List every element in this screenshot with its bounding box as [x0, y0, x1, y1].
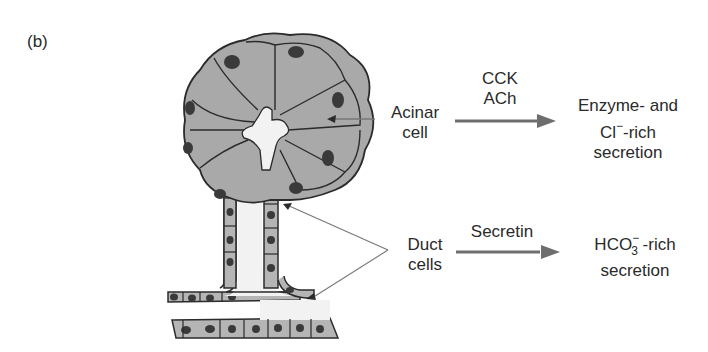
duct-secretion-arrow	[456, 245, 560, 259]
acinar-stimuli: CCK ACh	[470, 69, 530, 109]
acinar-secretion-arrow	[455, 114, 556, 128]
duct-output: HCO−3 -rich secretion	[580, 228, 690, 281]
acinar-cell-label: Acinar cell	[380, 103, 450, 143]
duct-cells-label: Duct cells	[395, 235, 455, 275]
bicarbonate-rich-line: HCO−3 -rich	[580, 228, 690, 261]
chloride-rich-line: Cl−-rich	[568, 116, 688, 143]
acinus	[183, 33, 373, 202]
acinus-illustration	[0, 0, 708, 352]
duct-stimulus: Secretin	[462, 222, 542, 242]
panel-label: (b)	[27, 32, 48, 52]
duct-pointers	[283, 203, 388, 300]
acinar-output: Enzyme- and Cl−-rich secretion	[568, 96, 688, 163]
